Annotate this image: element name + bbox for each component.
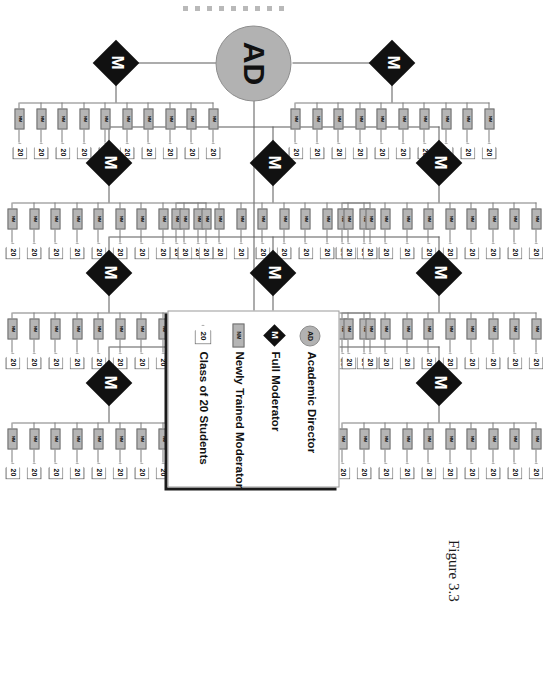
newly-trained-moderator-node[interactable]: NM (93, 428, 103, 449)
newly-trained-moderator-node[interactable]: NM (380, 428, 390, 449)
class-node[interactable]: 20 (507, 352, 522, 369)
class-node[interactable]: 20 (378, 352, 393, 369)
newly-trained-moderator-node[interactable]: NM (14, 108, 24, 129)
newly-trained-moderator-node[interactable]: NM (312, 108, 322, 129)
class-node[interactable]: 20 (112, 462, 127, 479)
newly-trained-moderator-node[interactable]: NM (115, 208, 125, 229)
newly-trained-moderator-node[interactable]: NM (402, 428, 412, 449)
class-node[interactable]: 20 (298, 242, 313, 259)
class-node[interactable]: 20 (362, 352, 377, 369)
newly-trained-moderator-node[interactable]: NM (466, 208, 476, 229)
newly-trained-moderator-node[interactable]: NM (50, 428, 60, 449)
class-node[interactable]: 20 (507, 242, 522, 259)
newly-trained-moderator-node[interactable]: NM (115, 318, 125, 339)
newly-trained-moderator-node[interactable]: NM (136, 208, 146, 229)
newly-trained-moderator-node[interactable]: NM (509, 428, 519, 449)
newly-trained-moderator-node[interactable]: NM (333, 108, 343, 129)
newly-trained-moderator-node[interactable]: NM (279, 208, 289, 229)
newly-trained-moderator-node[interactable]: NM (359, 428, 369, 449)
newly-trained-moderator-node[interactable]: NM (7, 428, 17, 449)
class-node[interactable]: 20 (5, 462, 20, 479)
class-node[interactable]: 20 (205, 142, 220, 159)
newly-trained-moderator-node[interactable]: NM (376, 108, 386, 129)
newly-trained-moderator-node[interactable]: NM (100, 108, 110, 129)
newly-trained-moderator-node[interactable]: NM (441, 108, 451, 129)
newly-trained-moderator-node[interactable]: NM (488, 208, 498, 229)
newly-trained-moderator-node[interactable]: NM (423, 208, 433, 229)
newly-trained-moderator-node[interactable]: NM (214, 208, 224, 229)
class-node[interactable]: 20 (26, 352, 41, 369)
class-node[interactable]: 20 (331, 142, 346, 159)
class-node[interactable]: 20 (362, 242, 377, 259)
class-node[interactable]: 20 (352, 142, 367, 159)
full-moderator-node[interactable]: M (416, 139, 462, 185)
newly-trained-moderator-node[interactable]: NM (158, 208, 168, 229)
class-node[interactable]: 20 (155, 242, 170, 259)
newly-trained-moderator-node[interactable]: NM (402, 318, 412, 339)
class-node[interactable]: 20 (33, 142, 48, 159)
newly-trained-moderator-node[interactable]: NM (488, 428, 498, 449)
newly-trained-moderator-node[interactable]: NM (509, 318, 519, 339)
class-node[interactable]: 20 (528, 352, 543, 369)
newly-trained-moderator-node[interactable]: NM (72, 428, 82, 449)
newly-trained-moderator-node[interactable]: NM (236, 208, 246, 229)
newly-trained-moderator-node[interactable]: NM (484, 108, 494, 129)
class-node[interactable]: 20 (464, 242, 479, 259)
class-node[interactable]: 20 (134, 462, 149, 479)
newly-trained-moderator-node[interactable]: NM (36, 108, 46, 129)
newly-trained-moderator-node[interactable]: NM (165, 108, 175, 129)
newly-trained-moderator-node[interactable]: NM (423, 428, 433, 449)
newly-trained-moderator-node[interactable]: NM (531, 428, 541, 449)
class-node[interactable]: 20 (91, 462, 106, 479)
class-node[interactable]: 20 (26, 462, 41, 479)
class-node[interactable]: 20 (212, 242, 227, 259)
newly-trained-moderator-node[interactable]: NM (186, 108, 196, 129)
class-node[interactable]: 20 (48, 352, 63, 369)
newly-trained-moderator-node[interactable]: NM (445, 318, 455, 339)
class-node[interactable]: 20 (69, 462, 84, 479)
class-node[interactable]: 20 (198, 242, 213, 259)
class-node[interactable]: 20 (464, 352, 479, 369)
class-node[interactable]: 20 (69, 352, 84, 369)
class-node[interactable]: 20 (464, 462, 479, 479)
newly-trained-moderator-node[interactable]: NM (380, 208, 390, 229)
class-node[interactable]: 20 (48, 242, 63, 259)
newly-trained-moderator-node[interactable]: NM (7, 318, 17, 339)
class-node[interactable]: 20 (162, 142, 177, 159)
newly-trained-moderator-node[interactable]: NM (72, 208, 82, 229)
newly-trained-moderator-node[interactable]: NM (93, 208, 103, 229)
newly-trained-moderator-node[interactable]: NM (158, 318, 168, 339)
newly-trained-moderator-node[interactable]: NM (355, 108, 365, 129)
newly-trained-moderator-node[interactable]: NM (115, 428, 125, 449)
class-node[interactable]: 20 (485, 242, 500, 259)
newly-trained-moderator-node[interactable]: NM (29, 208, 39, 229)
newly-trained-moderator-node[interactable]: NM (257, 208, 267, 229)
class-node[interactable]: 20 (233, 242, 248, 259)
full-moderator-node[interactable]: M (93, 39, 139, 85)
class-node[interactable]: 20 (528, 242, 543, 259)
class-node[interactable]: 20 (378, 462, 393, 479)
newly-trained-moderator-node[interactable]: NM (419, 108, 429, 129)
class-node[interactable]: 20 (319, 242, 334, 259)
newly-trained-moderator-node[interactable]: NM (93, 318, 103, 339)
newly-trained-moderator-node[interactable]: NM (122, 108, 132, 129)
class-node[interactable]: 20 (421, 462, 436, 479)
newly-trained-moderator-node[interactable]: NM (7, 208, 17, 229)
newly-trained-moderator-node[interactable]: NM (290, 108, 300, 129)
newly-trained-moderator-node[interactable]: NM (208, 108, 218, 129)
newly-trained-moderator-node[interactable]: NM (72, 318, 82, 339)
newly-trained-moderator-node[interactable]: NM (531, 318, 541, 339)
class-node[interactable]: 20 (399, 242, 414, 259)
class-node[interactable]: 20 (528, 462, 543, 479)
class-node[interactable]: 20 (341, 352, 356, 369)
class-node[interactable]: 20 (399, 352, 414, 369)
newly-trained-moderator-node[interactable]: NM (29, 428, 39, 449)
newly-trained-moderator-node[interactable]: NM (531, 208, 541, 229)
newly-trained-moderator-node[interactable]: NM (398, 108, 408, 129)
class-node[interactable]: 20 (341, 242, 356, 259)
newly-trained-moderator-node[interactable]: NM (79, 108, 89, 129)
class-node[interactable]: 20 (309, 142, 324, 159)
full-moderator-node[interactable]: M (369, 39, 415, 85)
full-moderator-node[interactable]: M (86, 139, 132, 185)
class-node[interactable]: 20 (134, 242, 149, 259)
